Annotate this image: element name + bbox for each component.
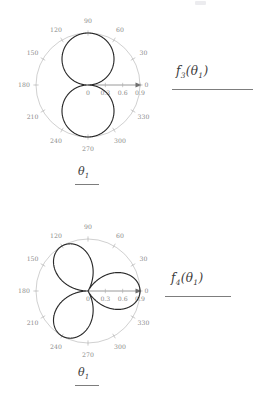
axis-label-rule-top <box>75 184 99 185</box>
paren-close: ) <box>198 271 203 285</box>
angular-tick <box>131 316 136 319</box>
angular-tick-label: 150 <box>27 255 39 262</box>
angular-tick <box>131 58 136 61</box>
function-label-f3: f3(θ1) <box>176 64 208 80</box>
angular-tick-label: 210 <box>27 319 39 326</box>
angular-tick-label: 120 <box>50 232 62 239</box>
function-label-rule-f3 <box>172 89 253 90</box>
radial-axis-arrow <box>136 288 142 293</box>
axis-label-theta1-top: θ1 <box>78 165 89 180</box>
angular-tick-label: 180 <box>18 287 30 294</box>
paren-close: ) <box>203 64 208 78</box>
axis-label-rule-bottom <box>75 385 99 386</box>
angular-tick-label-zero: 0 <box>145 287 149 294</box>
angular-tick <box>41 316 46 319</box>
angular-tick-label: 330 <box>138 113 150 120</box>
angular-tick-label: 60 <box>116 232 124 239</box>
radial-tick-label: 0 <box>86 295 90 302</box>
angular-tick <box>41 110 46 113</box>
theta-symbol: θ <box>78 366 85 379</box>
angular-tick <box>61 38 64 43</box>
polar-plot-f3: 306090120150180210240270300330000.30.60.… <box>0 0 253 199</box>
radial-tick-label: 0.3 <box>100 295 110 302</box>
angular-tick-label-zero: 0 <box>145 81 149 88</box>
radial-tick-label: 0 <box>86 89 90 96</box>
polar-plot-f4: 306090120150180210240270300330000.30.60.… <box>0 199 253 398</box>
theta-subscript: 1 <box>85 373 89 381</box>
angular-tick-label: 30 <box>139 49 147 56</box>
angular-tick-label: 330 <box>138 319 150 326</box>
angular-tick <box>41 264 46 267</box>
angular-tick <box>61 128 64 133</box>
polar-figure-f3: 306090120150180210240270300330000.30.60.… <box>0 0 253 199</box>
radial-axis-arrow <box>136 82 142 87</box>
angular-tick <box>113 244 116 249</box>
angular-tick-label: 210 <box>27 113 39 120</box>
theta-symbol: θ <box>78 165 85 178</box>
angular-tick-label: 60 <box>116 26 124 33</box>
angular-tick-label: 90 <box>84 17 92 24</box>
angular-tick <box>113 334 116 339</box>
angular-tick-label: 240 <box>50 343 62 350</box>
angular-tick <box>131 110 136 113</box>
axis-label-theta1-bottom: θ1 <box>78 366 89 381</box>
angular-tick-label: 300 <box>114 343 126 350</box>
angular-tick <box>131 264 136 267</box>
angular-tick-label: 300 <box>114 137 126 144</box>
angular-tick-label: 270 <box>82 145 94 152</box>
angular-tick-label: 150 <box>27 49 39 56</box>
radial-tick-label: 0.6 <box>118 89 128 96</box>
angular-tick-label: 90 <box>84 223 92 230</box>
angular-tick-label: 30 <box>139 255 147 262</box>
angular-tick-label: 240 <box>50 137 62 144</box>
angular-tick <box>113 128 116 133</box>
radial-tick-label: 0.6 <box>118 295 128 302</box>
angular-tick-label: 180 <box>18 81 30 88</box>
angular-tick <box>41 58 46 61</box>
angular-tick-label: 270 <box>82 351 94 358</box>
angular-tick <box>113 38 116 43</box>
function-label-f4: f4(θ1) <box>171 271 203 287</box>
function-label-rule-f4 <box>165 296 231 297</box>
polar-figure-f4: 306090120150180210240270300330000.30.60.… <box>0 199 253 398</box>
radial-tick-label: 0.9 <box>135 89 145 96</box>
angular-tick-label: 120 <box>50 26 62 33</box>
theta-subscript: 1 <box>85 172 89 180</box>
